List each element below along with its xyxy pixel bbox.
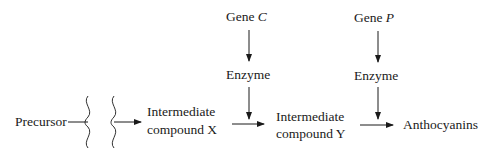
gene-c-label: Gene C	[226, 8, 267, 25]
compound-y-line2: compound Y	[276, 125, 346, 142]
precursor-label: Precursor	[15, 113, 67, 130]
compound-x-line1: Intermediate	[147, 103, 215, 120]
gene-c-letter: C	[258, 9, 267, 24]
enzyme-c-label: Enzyme	[226, 66, 270, 83]
enzyme-p-label: Enzyme	[354, 67, 398, 84]
compound-y-line1: Intermediate	[276, 108, 344, 125]
gene-p-letter: P	[386, 10, 394, 25]
anthocyanins-label: Anthocyanins	[403, 116, 478, 133]
gene-p-label: Gene P	[354, 9, 394, 26]
compound-x-line2: compound X	[147, 121, 217, 138]
